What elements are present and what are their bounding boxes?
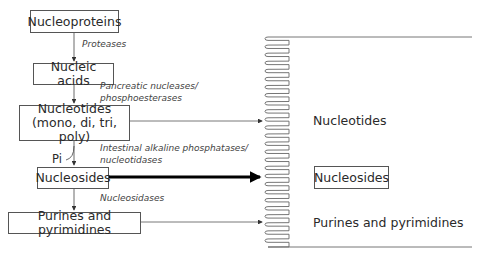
- enzyme-intestinal-line2: nucleotidases: [100, 154, 162, 166]
- absorbed-nucleotides: Nucleotides: [313, 113, 386, 128]
- enzyme-nucleosidases: Nucleosidases: [100, 192, 164, 204]
- node-purines-pyrimidines: Purines and pyrimidines: [8, 212, 141, 234]
- absorbed-nucleosides-box: Nucleosides: [314, 166, 389, 189]
- enzyme-proteases: Proteases: [82, 38, 126, 50]
- pi-label: Pi: [52, 152, 62, 166]
- node-label: Nucleoproteins: [28, 15, 122, 29]
- enzyme-pancreatic-line1: Pancreatic nucleases/: [100, 80, 198, 92]
- node-nucleosides: Nucleosides: [37, 167, 109, 189]
- absorbed-nucleosides: Nucleosides: [314, 171, 389, 185]
- node-label: Purines and pyrimidines: [9, 209, 140, 237]
- microvilli-border: [265, 37, 289, 247]
- pi-release-curve: [66, 146, 74, 160]
- node-label: Nucleosides: [35, 171, 110, 185]
- absorbed-purines: Purines and pyrimidines: [313, 215, 464, 230]
- enzyme-intestinal-line1: Intestinal alkaline phosphatases/: [100, 142, 248, 154]
- node-nucleotides: Nucleotides (mono, di, tri, poly): [19, 105, 130, 141]
- node-label-line2: (mono, di, tri, poly): [20, 116, 129, 144]
- node-label-line1: Nucleotides: [38, 102, 111, 116]
- node-nucleoproteins: Nucleoproteins: [30, 10, 119, 33]
- enzyme-pancreatic-line2: phosphoesterases: [100, 92, 182, 104]
